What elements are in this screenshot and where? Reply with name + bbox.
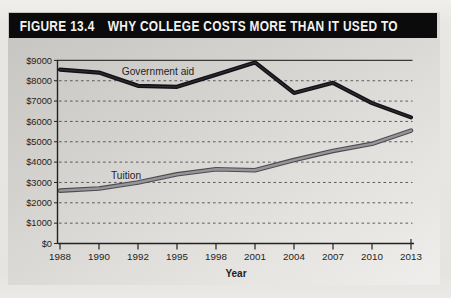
x-tick-label: 2004 — [283, 251, 305, 262]
x-tick-label: 2013 — [400, 251, 422, 262]
x-tick-label: 2010 — [361, 251, 383, 262]
x-tick-label: 2007 — [322, 251, 344, 262]
government-aid-line — [60, 62, 411, 117]
y-tick-label: $9000 — [26, 56, 52, 66]
x-tick-label: 1992 — [127, 251, 149, 262]
y-tick-label: $6000 — [26, 117, 52, 127]
y-tick-label: $0 — [42, 239, 52, 249]
y-tick-label: $7000 — [26, 96, 52, 106]
x-tick-label: 2001 — [244, 251, 266, 262]
axes — [54, 60, 414, 250]
y-tick-label: $2000 — [26, 198, 52, 208]
y-tick-label: $8000 — [26, 76, 52, 86]
x-axis-title: Year — [225, 268, 246, 279]
y-tick-label: $4000 — [26, 157, 52, 167]
series-label-government-aid: Government aid — [122, 66, 195, 77]
tuition-line — [60, 131, 411, 191]
tuition-line — [60, 131, 411, 191]
y-tick-label: $1000 — [26, 218, 52, 228]
figure-photo: FIGURE 13.4 WHY COLLEGE COSTS MORE THAN … — [0, 0, 451, 298]
tick-labels: $0$1000$2000$3000$4000$5000$6000$7000$80… — [26, 56, 422, 262]
x-tick-label: 1990 — [88, 251, 110, 262]
x-tick-label: 1995 — [166, 251, 188, 262]
x-tick-label: 1998 — [205, 251, 227, 262]
series-label-tuition: Tuition — [111, 170, 141, 181]
line-chart: $0$1000$2000$3000$4000$5000$6000$7000$80… — [0, 0, 451, 298]
y-tick-label: $3000 — [26, 178, 52, 188]
gridlines — [58, 60, 413, 223]
y-tick-label: $5000 — [26, 137, 52, 147]
x-tick-label: 1988 — [49, 251, 71, 262]
